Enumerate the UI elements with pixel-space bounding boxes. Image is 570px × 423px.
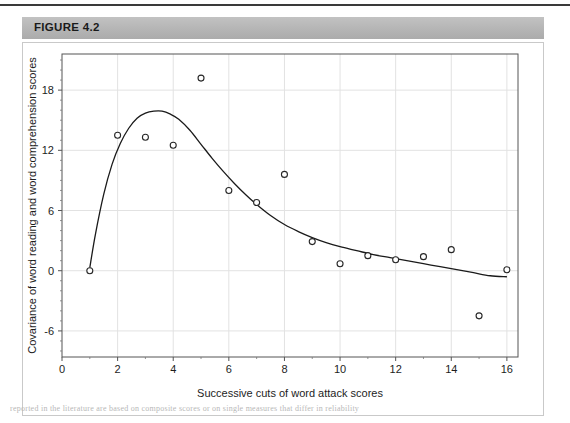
figure-number-label: FIGURE 4.2 [34,21,100,33]
data-point [337,261,343,267]
y-tick-label: 18 [42,84,54,96]
x-tick-labels: 0246810121416 [59,363,513,375]
x-tick-label: 4 [170,363,176,375]
data-point [198,75,204,81]
x-tick-label: 10 [334,363,346,375]
plot-frame [62,54,518,357]
y-tick-label: 12 [42,144,54,156]
chart-container: 0246810121416 -6061218 Successive cuts o… [22,42,544,416]
data-point [420,254,426,260]
y-axis-title: Covariance of word reading and word comp… [26,57,38,354]
x-tick-label: 0 [59,363,65,375]
data-point [393,257,399,263]
y-axis-ticks [58,90,62,331]
data-point [504,267,510,273]
x-tick-label: 6 [226,363,232,375]
data-point [115,132,121,138]
data-point [476,313,482,319]
data-point [142,134,148,140]
data-point [87,268,93,274]
y-tick-label: 0 [48,265,54,277]
x-tick-label: 14 [445,363,457,375]
scatter-plot: 0246810121416 -6061218 Successive cuts o… [23,43,543,415]
data-point [448,247,454,253]
x-tick-label: 12 [390,363,402,375]
figure-header-band: FIGURE 4.2 [22,17,544,39]
data-point [309,239,315,245]
x-gridlines [118,54,507,357]
y-tick-label: -6 [44,325,54,337]
x-axis-ticks [62,357,507,361]
y-tick-label: 6 [48,205,54,217]
x-tick-label: 8 [281,363,287,375]
data-point [365,253,371,259]
data-point [281,171,287,177]
y-tick-labels: -6061218 [42,84,54,337]
fitted-curve [90,111,507,277]
x-axis-title: Successive cuts of word attack scores [197,387,383,399]
data-point [254,199,260,205]
x-tick-label: 2 [115,363,121,375]
data-point [226,187,232,193]
page-body-text-fragment: reported in the literature are based on … [10,404,562,418]
page-top-rule [0,4,570,6]
x-tick-label: 16 [501,363,513,375]
data-point [170,142,176,148]
